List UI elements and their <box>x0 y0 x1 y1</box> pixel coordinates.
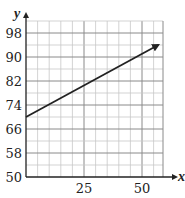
y-tick-label: 50 <box>5 170 22 185</box>
y-tick-label: 66 <box>5 122 22 137</box>
grid-lines <box>26 21 163 177</box>
x-axis-label: x <box>177 169 185 184</box>
y-tick-label: 82 <box>5 74 22 89</box>
x-tick-label: 25 <box>76 181 93 196</box>
y-tick-label: 90 <box>5 50 22 65</box>
x-tick-label: 50 <box>134 181 151 196</box>
x-tick-labels: 2550 <box>76 181 151 196</box>
y-tick-label: 74 <box>5 98 22 113</box>
line-chart: 50586674829098 2550 y x <box>0 0 185 198</box>
y-axis-label: y <box>12 6 21 21</box>
y-tick-labels: 50586674829098 <box>5 26 22 185</box>
y-tick-label: 98 <box>5 26 22 41</box>
y-tick-label: 58 <box>5 146 22 161</box>
